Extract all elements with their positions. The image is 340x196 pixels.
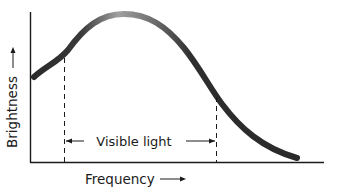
visible-left-arrow-icon — [66, 139, 84, 144]
brightness-frequency-diagram: Visible light Frequency Brightness — [0, 0, 340, 196]
x-axis-arrow-icon — [160, 177, 186, 182]
y-axis-arrow-icon — [11, 47, 16, 68]
x-axis-label: Frequency — [85, 171, 155, 187]
visible-light-label: Visible light — [96, 134, 171, 149]
y-axis-label: Brightness — [4, 76, 20, 148]
visible-right-arrow-icon — [186, 139, 215, 144]
